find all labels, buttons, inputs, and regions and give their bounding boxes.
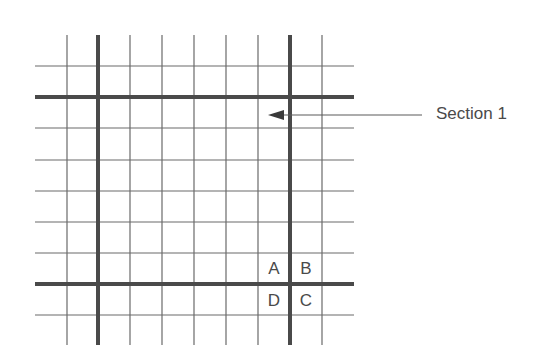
section-1-label: Section 1 — [436, 104, 507, 124]
cell-label-a: A — [258, 253, 290, 284]
arrowhead-icon — [268, 110, 284, 120]
cell-label-c: C — [290, 285, 322, 316]
cell-label-d: D — [258, 285, 290, 316]
cell-label-b: B — [290, 253, 322, 284]
